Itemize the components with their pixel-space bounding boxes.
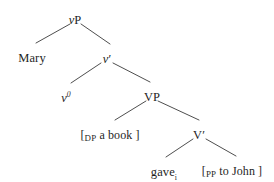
node-pp-to-john: [PP to John ] xyxy=(202,165,262,179)
vbar-big-to-gave xyxy=(166,139,193,157)
vbar-big-to-pp xyxy=(206,139,236,156)
gave-trace-index: i xyxy=(175,173,177,182)
node-gave-verb: gavei xyxy=(151,166,177,179)
node-mary: Mary xyxy=(18,52,45,65)
vp-to-vbar xyxy=(81,24,110,44)
node-v-bar-projection: ′ xyxy=(108,52,111,66)
vp-to-mary xyxy=(36,24,70,43)
vp-to-vbar-big xyxy=(158,101,199,120)
vbar-to-vp xyxy=(113,63,150,82)
node-vp-lexical: VP xyxy=(144,91,160,104)
node-v-zero: v0 xyxy=(61,92,71,105)
node-V-bar: V′ xyxy=(193,129,205,142)
node-vp-projection: P xyxy=(74,13,81,27)
gave-text: gave xyxy=(151,165,175,179)
vp-to-dp xyxy=(115,101,146,120)
dp-category-label: DP xyxy=(85,133,97,143)
pp-text: to John xyxy=(216,164,258,178)
syntax-tree-figure: vP Mary v′ v0 VP [DP a book ] V′ gavei [… xyxy=(0,0,274,181)
node-vp: vP xyxy=(69,14,82,27)
node-dp-a-book: [DP a book ] xyxy=(80,129,139,143)
pp-category-label: PP xyxy=(206,169,216,179)
pp-close-bracket: ] xyxy=(258,164,262,178)
node-v-zero-projection: 0 xyxy=(67,90,71,99)
dp-text: a book xyxy=(96,128,135,142)
dp-close-bracket: ] xyxy=(135,128,139,142)
node-v-bar: v′ xyxy=(103,53,111,66)
node-vp-lexical-label: VP xyxy=(144,90,160,104)
vbar-to-v0 xyxy=(71,63,101,83)
tree-branch-layer xyxy=(0,0,274,181)
node-mary-label: Mary xyxy=(18,51,45,65)
node-V-bar-head: V xyxy=(193,128,202,142)
node-V-bar-projection: ′ xyxy=(202,128,205,142)
